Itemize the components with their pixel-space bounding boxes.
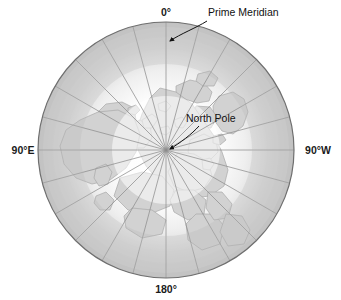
polar-map-figure: 0° 90°E 90°W 180° Prime Meridian North P…	[0, 0, 341, 300]
label-90-west: 90°W	[305, 144, 331, 156]
north-pole-label: North Pole	[186, 112, 236, 124]
label-180-degrees: 180°	[155, 283, 177, 295]
label-0-degrees: 0°	[161, 6, 171, 18]
prime-meridian-label: Prime Meridian	[208, 6, 279, 18]
globe-contents	[38, 22, 294, 278]
label-90-east: 90°E	[12, 144, 35, 156]
globe-disc	[38, 22, 294, 278]
polar-projection-map: 0° 90°E 90°W 180° Prime Meridian North P…	[0, 0, 341, 300]
